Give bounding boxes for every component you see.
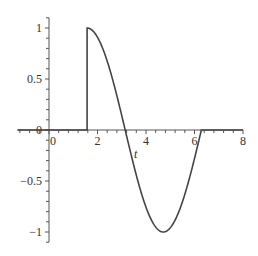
x-tick-label: 4 — [143, 134, 149, 148]
x-tick-label: 6 — [192, 134, 198, 148]
chart-container: 02468−1−0.500.51t — [0, 0, 258, 256]
x-tick-label: 8 — [240, 134, 246, 148]
y-tick-label: 1 — [36, 21, 42, 35]
y-tick-label: 0.5 — [27, 72, 42, 86]
y-tick-label: −1 — [29, 225, 42, 239]
function-plot: 02468−1−0.500.51t — [0, 0, 258, 256]
x-axis-label: t — [134, 147, 138, 161]
x-tick-label: 0 — [50, 134, 56, 148]
y-tick-label: −0.5 — [20, 174, 42, 188]
x-tick-label: 2 — [95, 134, 101, 148]
